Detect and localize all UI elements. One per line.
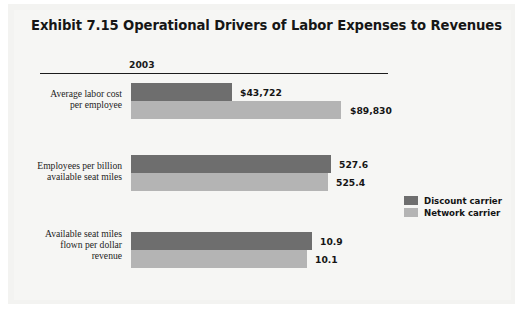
legend-swatch-icon bbox=[404, 196, 418, 205]
legend-item-discount-carrier: Discount carrier bbox=[404, 195, 502, 206]
bar-value-network-carrier: 10.1 bbox=[315, 254, 338, 265]
legend-swatch-icon bbox=[404, 208, 418, 217]
bar-network-carrier bbox=[131, 250, 307, 268]
bar-discount-carrier bbox=[131, 232, 312, 250]
legend-label: Discount carrier bbox=[424, 196, 502, 206]
legend-item-network-carrier: Network carrier bbox=[404, 207, 502, 218]
chart-figure: Exhibit 7.15 Operational Drivers of Labo… bbox=[0, 0, 523, 321]
category-label: Available seat miles flown per dollar re… bbox=[0, 228, 122, 262]
category-label-line: Available seat miles bbox=[0, 228, 122, 239]
legend-label: Network carrier bbox=[424, 208, 500, 218]
bar-group-asm-per-dollar-revenue: Available seat miles flown per dollar re… bbox=[0, 0, 523, 321]
category-label-line: revenue bbox=[0, 250, 122, 261]
category-label-line: flown per dollar bbox=[0, 239, 122, 250]
chart-legend: Discount carrier Network carrier bbox=[404, 195, 502, 219]
bar-value-discount-carrier: 10.9 bbox=[320, 236, 343, 247]
exhibit-page: Exhibit 7.15 Operational Drivers of Labo… bbox=[0, 0, 523, 321]
